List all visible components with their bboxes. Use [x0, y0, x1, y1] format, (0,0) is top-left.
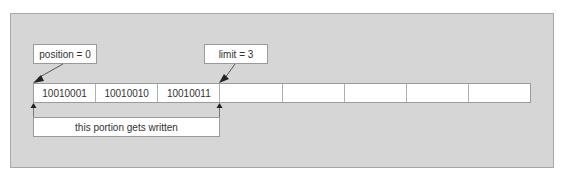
buffer-cell: 10010001: [34, 84, 96, 102]
position-label: position = 0: [33, 44, 97, 64]
buffer-cell: [283, 84, 345, 102]
buffer-cell: [407, 84, 469, 102]
buffer-cell: [469, 84, 530, 102]
buffer-cell: 10010010: [96, 84, 158, 102]
limit-label: limit = 3: [204, 44, 268, 64]
buffer-cell: 10010011: [158, 84, 220, 102]
written-portion-label: this portion gets written: [33, 117, 220, 137]
buffer-cell: [220, 84, 282, 102]
byte-buffer-strip: 10010001 10010010 10010011: [33, 83, 531, 103]
buffer-cell: [345, 84, 407, 102]
